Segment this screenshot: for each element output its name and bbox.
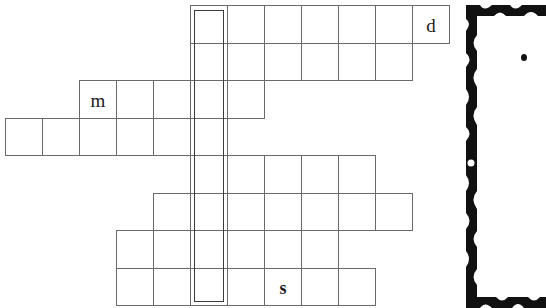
crossword-cell[interactable] — [79, 118, 117, 157]
crossword-cell[interactable] — [338, 5, 376, 44]
crossword-cell[interactable] — [153, 193, 191, 232]
crossword-board: dms — [0, 0, 460, 308]
frame-pattern-icon — [466, 5, 546, 308]
crossword-cell[interactable] — [338, 155, 376, 194]
crossword-cell[interactable] — [227, 193, 265, 232]
crossword-cell[interactable] — [116, 118, 154, 157]
crossword-cell[interactable] — [264, 5, 302, 44]
crossword-cell[interactable]: s — [264, 268, 302, 307]
crossword-cell[interactable] — [153, 118, 191, 157]
crossword-cell[interactable] — [227, 230, 265, 269]
crossword-cell[interactable] — [190, 118, 228, 157]
crossword-cell[interactable] — [116, 80, 154, 119]
cell-letter: m — [91, 91, 106, 110]
crossword-cell[interactable] — [190, 80, 228, 119]
crossword-cell[interactable] — [375, 43, 413, 82]
crossword-cell[interactable] — [153, 268, 191, 307]
crossword-cell[interactable] — [190, 43, 228, 82]
crossword-cell[interactable] — [264, 155, 302, 194]
crossword-cell[interactable] — [301, 193, 339, 232]
crossword-cell[interactable] — [301, 43, 339, 82]
crossword-cell[interactable] — [227, 155, 265, 194]
crossword-cell[interactable] — [227, 43, 265, 82]
crossword-cell[interactable] — [338, 193, 376, 232]
crossword-cell[interactable] — [153, 230, 191, 269]
crossword-cell[interactable] — [264, 230, 302, 269]
crossword-cell[interactable] — [301, 230, 339, 269]
crossword-cell[interactable] — [227, 5, 265, 44]
crossword-cell[interactable] — [5, 118, 43, 157]
decorative-frame-panel — [466, 5, 546, 308]
crossword-cell[interactable] — [227, 268, 265, 307]
crossword-cell[interactable] — [190, 268, 228, 307]
crossword-cell[interactable]: d — [412, 5, 450, 44]
crossword-cell[interactable] — [190, 193, 228, 232]
crossword-cell[interactable] — [338, 268, 376, 307]
crossword-cell[interactable] — [338, 43, 376, 82]
crossword-cell[interactable] — [190, 230, 228, 269]
crossword-cell[interactable] — [116, 268, 154, 307]
crossword-cell[interactable] — [264, 43, 302, 82]
bullet-icon — [521, 54, 527, 61]
crossword-cell[interactable] — [153, 80, 191, 119]
crossword-cell[interactable] — [375, 193, 413, 232]
crossword-cell[interactable] — [264, 193, 302, 232]
crossword-cell[interactable] — [190, 155, 228, 194]
cell-letter: d — [426, 16, 436, 35]
crossword-cell[interactable] — [301, 268, 339, 307]
crossword-cell[interactable] — [375, 5, 413, 44]
crossword-cell[interactable] — [190, 5, 228, 44]
crossword-cell[interactable] — [227, 80, 265, 119]
crossword-cell[interactable] — [42, 118, 80, 157]
crossword-cell[interactable]: m — [79, 80, 117, 119]
crossword-cell[interactable] — [116, 230, 154, 269]
cell-letter: s — [279, 279, 286, 297]
crossword-cell[interactable] — [301, 155, 339, 194]
crossword-cell[interactable] — [301, 5, 339, 44]
